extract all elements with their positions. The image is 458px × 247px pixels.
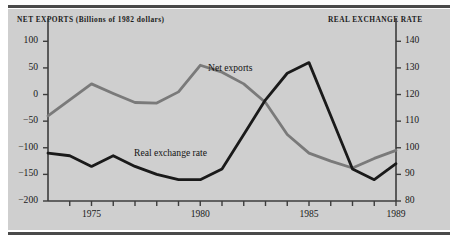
series-line-real-exchange-rate <box>48 63 396 180</box>
left-tick-label: −150 <box>4 167 38 178</box>
left-tick-label: −50 <box>4 114 38 125</box>
left-tick-label: 100 <box>4 34 38 45</box>
series-layer <box>48 63 396 180</box>
left-tick-label: 50 <box>4 61 38 72</box>
right-tick-label: 80 <box>405 194 439 205</box>
right-tick-label: 100 <box>405 141 439 152</box>
series-label-real-exchange-rate: Real exchange rate <box>134 147 207 158</box>
left-tick-label: −100 <box>4 141 38 152</box>
right-tick-label: 120 <box>405 88 439 99</box>
x-tick-label: 1980 <box>178 208 222 219</box>
chart-figure: NET EXPORTS (Billions of 1982 dollars) R… <box>0 0 458 247</box>
series-line-net-exports <box>48 65 396 168</box>
right-tick-label: 130 <box>405 61 439 72</box>
x-tick-label: 1989 <box>374 208 418 219</box>
x-tick-label: 1975 <box>70 208 114 219</box>
series-label-net-exports: Net exports <box>208 62 253 73</box>
axis-layer <box>43 18 401 206</box>
right-tick-label: 140 <box>405 34 439 45</box>
left-tick-label: −200 <box>4 194 38 205</box>
left-tick-label: 0 <box>4 88 38 99</box>
right-tick-label: 90 <box>405 167 439 178</box>
right-tick-label: 110 <box>405 114 439 125</box>
x-tick-label: 1985 <box>287 208 331 219</box>
